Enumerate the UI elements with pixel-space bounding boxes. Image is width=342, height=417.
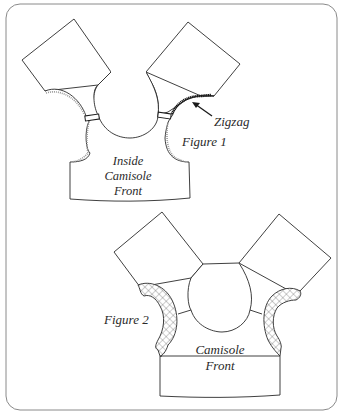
body-label-line-3: Front: [113, 184, 143, 198]
figure-1-caption: Figure 1: [181, 134, 227, 149]
body-label-line-1: Inside: [112, 154, 144, 168]
figure-2-caption: Figure 2: [103, 312, 149, 327]
body-label-line-2: Camisole: [104, 169, 152, 183]
body-label-2-line-2: Front: [204, 358, 235, 373]
camisole-diagram: Zigzag Figure 1 Inside Camisole Front Fi…: [0, 0, 342, 417]
body-label-2-line-1: Camisole: [195, 342, 244, 357]
zigzag-label: Zigzag: [214, 114, 250, 129]
neckline-2: [188, 263, 252, 332]
